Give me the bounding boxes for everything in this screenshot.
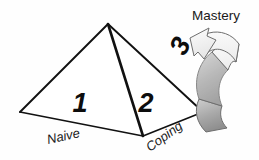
arrow-tail-segment — [196, 99, 227, 132]
stage-number-2: 2 — [137, 88, 153, 118]
stage-number-1: 1 — [72, 88, 87, 118]
curved-arrow — [190, 28, 239, 132]
diagram-canvas: 1 2 3 Naive Coping Mastery — [0, 0, 259, 160]
mastery-label: Mastery — [192, 8, 240, 23]
stage-number-3: 3 — [163, 32, 197, 59]
pyramid-diagram: 1 2 3 Naive Coping Mastery — [0, 0, 259, 160]
edge-label-naive: Naive — [46, 125, 82, 147]
